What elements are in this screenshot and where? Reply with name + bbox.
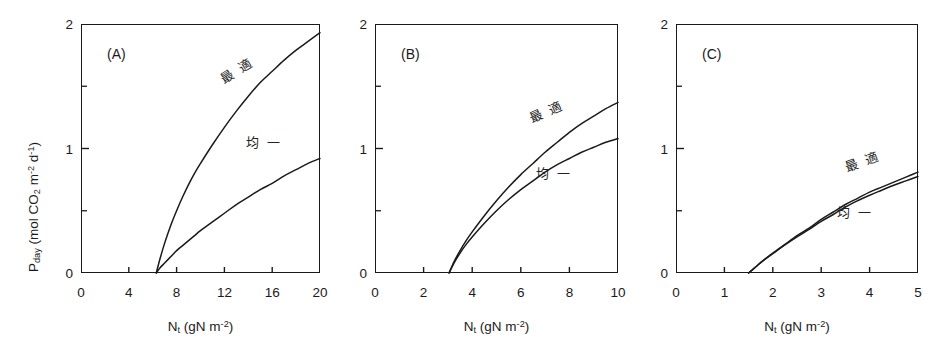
x-axis-title-c: Nt (gN m-2) <box>764 319 829 335</box>
x-tick-label: 4 <box>866 285 874 300</box>
panel-letter-c: (C) <box>702 46 721 62</box>
curve-uniform-c <box>749 177 918 273</box>
x-tick-label: 5 <box>914 285 922 300</box>
x-axis-symbol: N <box>764 319 774 334</box>
x-axis-units-close: ) <box>825 319 830 334</box>
x-tick-label: 0 <box>672 285 680 300</box>
curve-label-uniform-c: 均 一 <box>837 201 873 220</box>
x-tick-label: 2 <box>769 285 777 300</box>
x-tick-label: 3 <box>817 285 825 300</box>
figure-canvas: Pday (mol CO2 m-2 d-1) 048121620012(A)最 … <box>0 0 936 359</box>
x-axis-units-open: (gN m <box>777 319 818 334</box>
x-tick-label: 1 <box>721 285 729 300</box>
curve-optimal-c <box>749 172 918 273</box>
y-tick-label: 2 <box>654 17 668 32</box>
x-axis-units-exp: -2 <box>817 319 825 329</box>
chart-panel-c: 012345012(C)最 適均 一Nt (gN m-2) <box>0 0 936 359</box>
y-tick-label: 0 <box>654 266 668 281</box>
y-tick-label: 1 <box>654 141 668 156</box>
